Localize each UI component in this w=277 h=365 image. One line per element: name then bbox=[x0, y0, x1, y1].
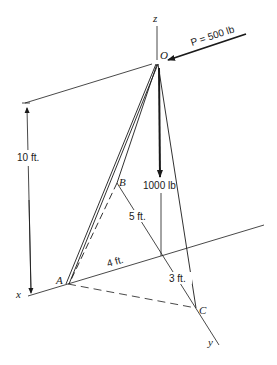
leg-OA-inner bbox=[69, 64, 158, 284]
y-axis bbox=[117, 183, 219, 345]
height-dimension-line-lower bbox=[29, 200, 31, 293]
b-offset-label: 5 ft. bbox=[129, 211, 146, 222]
c-offset-label: 3 ft. bbox=[169, 273, 186, 284]
height-reference-line bbox=[25, 64, 152, 103]
weight-force-label: 1000 lb bbox=[143, 180, 176, 191]
height-dimension-label: 10 ft. bbox=[17, 152, 39, 163]
x-axis bbox=[28, 225, 264, 296]
leg-OB bbox=[117, 64, 157, 183]
y-axis-label: y bbox=[207, 336, 213, 348]
weight-force-arrow bbox=[159, 68, 160, 177]
point-A-label: A bbox=[55, 274, 63, 286]
base-AC-dashed bbox=[68, 284, 196, 308]
tripod-diagram: z 10 ft. x y 1000 lb P = 500 lb O A B C … bbox=[0, 0, 277, 365]
point-B-label: B bbox=[119, 176, 126, 188]
point-C-label: C bbox=[199, 304, 207, 316]
z-axis-label: z bbox=[152, 12, 158, 24]
leg-OA-outer bbox=[66, 64, 156, 284]
point-O-label: O bbox=[160, 49, 168, 61]
x-axis-label: x bbox=[15, 288, 21, 300]
a-offset-label: 4 ft. bbox=[106, 254, 125, 269]
